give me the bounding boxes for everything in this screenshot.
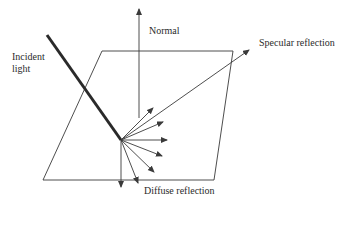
incident-label-line1: Incident [12, 51, 45, 63]
diffuse-arrow [121, 140, 138, 183]
diffuse-reflection-arrows [121, 108, 167, 187]
diffuse-arrow [121, 140, 154, 172]
incident-label-line2: light [12, 63, 45, 75]
incident-light-label: Incident light [12, 51, 45, 75]
specular-reflection-arrow [121, 50, 249, 140]
diffuse-arrow [121, 140, 162, 156]
diffuse-reflection-label: Diffuse reflection [144, 185, 215, 197]
diffuse-arrow [121, 108, 153, 140]
specular-reflection-label: Specular reflection [259, 37, 335, 49]
normal-label: Normal [149, 25, 180, 37]
